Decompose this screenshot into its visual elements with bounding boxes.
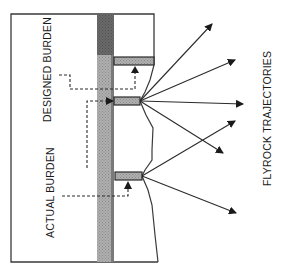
lower-charge <box>115 172 142 180</box>
arrow-up-icon <box>131 66 139 73</box>
middle-charge <box>114 97 140 105</box>
trajectory-arrow <box>140 101 243 104</box>
bench-outline <box>11 14 158 262</box>
upper-charge <box>114 57 154 65</box>
designed-burden-label: DESIGNED BURDEN <box>41 17 53 122</box>
arrow-up-icon <box>124 181 132 189</box>
actual-burden-arrowheads <box>124 181 132 189</box>
actual-burden-indicator <box>62 189 128 196</box>
blast-hole-column <box>97 14 114 262</box>
flyrock-trajectories-label: FLYROCK TRAJECTORIES <box>261 51 273 186</box>
actual-burden-label: ACTUAL BURDEN <box>44 147 56 238</box>
trajectory-arrow <box>142 176 236 213</box>
trajectory-arrow <box>142 121 235 176</box>
flyrock-trajectories <box>140 24 243 213</box>
flyrock-diagram: DESIGNED BURDEN ACTUAL BURDEN FLYROCK TR… <box>0 0 283 272</box>
